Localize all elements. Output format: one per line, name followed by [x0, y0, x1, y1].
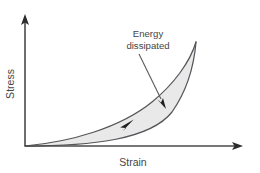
stress-strain-hysteresis-figure: Energy dissipated Stress Strain — [0, 0, 260, 173]
annotation-line-2: dissipated — [126, 40, 169, 51]
energy-dissipated-shaded-region — [25, 42, 196, 146]
annotation-line-1: Energy — [133, 28, 164, 39]
y-axis-label: Stress — [4, 69, 16, 99]
x-axis-label: Strain — [119, 156, 147, 168]
annotation-leader-line — [139, 54, 161, 99]
